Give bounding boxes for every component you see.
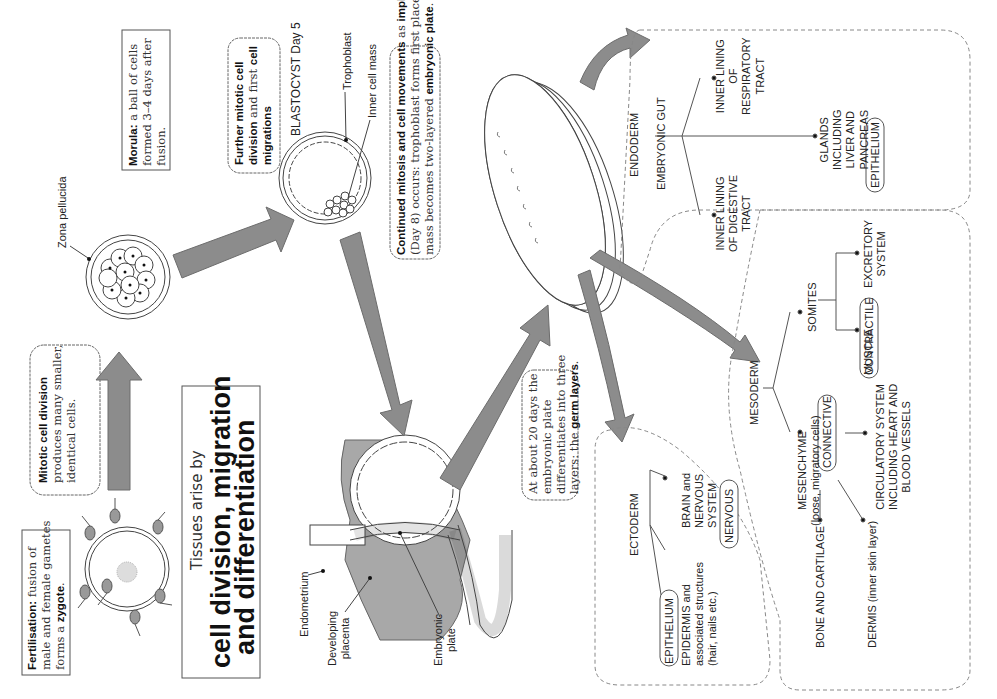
dermis-label: DERMIS (inner skin layer) xyxy=(866,521,879,648)
fertilisation-bold: Fertilisation: xyxy=(26,601,38,670)
developing-placenta-label: Developing placenta xyxy=(326,611,352,666)
mesoderm-title: MESODERM xyxy=(748,360,761,425)
blastocyst-title: BLASTOCYST Day 5 xyxy=(289,22,303,136)
nervous-pill: NERVOUS xyxy=(723,489,736,543)
implantation-text: Continued mitosis and cell movements as … xyxy=(395,0,436,255)
glands-label: GLANDS INCLUDING LIVER AND PANCREAS xyxy=(818,109,871,170)
connective-pill: CONNECTIVE xyxy=(821,396,834,468)
somites-label: SOMITES xyxy=(806,282,819,332)
mitotic-text: Mitotic cell division produces many smal… xyxy=(37,345,78,483)
endoderm-title: ENDODERM xyxy=(628,113,641,177)
circulatory-label: CIRCULATORY SYSTEM INCLUDING HEART AND B… xyxy=(874,384,914,510)
title-prefix: Tissues arise by xyxy=(188,450,206,570)
ectoderm-title: ECTODERM xyxy=(628,493,641,556)
respiratory-label: INNER LINING OF RESPIRATORY TRACT xyxy=(714,37,767,115)
mesenchyme-label: MESENCHYME (loose, migratory cells) xyxy=(796,415,822,526)
excretory-label: EXCRETORY SYSTEM xyxy=(862,220,888,288)
germ-layers-text: At about 20 days the embryonic plate dif… xyxy=(527,355,582,494)
inner-cell-mass-label: Inner cell mass xyxy=(366,44,379,118)
trophoblast-label: Trophoblast xyxy=(341,32,354,90)
morula-text: Morula: a ball of cells formed 3–4 days … xyxy=(127,38,168,166)
digestive-label: INNER LINING OF DIGESTIVE TRACT xyxy=(714,175,754,252)
zygote-illustration xyxy=(78,498,172,636)
morula-illustration xyxy=(70,235,170,319)
embryonic-plate-label: Embryonic plate xyxy=(432,614,458,666)
implantation-illustration xyxy=(308,435,512,640)
embryonic-gut-label: EMBRYONIC GUT xyxy=(655,97,668,190)
zona-pellucida-label: Zona pellucida xyxy=(56,176,69,248)
epithelium-pill-endoderm: EPITHELIUM xyxy=(869,122,882,188)
bone-cartilage-label: BONE AND CARTILAGE xyxy=(814,526,827,648)
further-text: Further mitotic cell division and first … xyxy=(233,46,274,165)
mesoderm-panel xyxy=(729,210,970,690)
epidermis-label: EPIDERMIS and associated structures (hai… xyxy=(680,562,720,666)
epithelium-pill-ectoderm: EPITHELIUM xyxy=(663,598,676,664)
endoderm-panel xyxy=(620,30,970,283)
brain-label: BRAIN and NERVOUS SYSTEM xyxy=(680,473,720,528)
germ-disc-illustration xyxy=(460,60,647,327)
endometrium-label: Endometrium xyxy=(298,572,311,637)
title-line-2: and differentiation xyxy=(230,420,261,656)
fertilisation-text: Fertilisation: fusion of male and female… xyxy=(26,521,67,670)
contractile-pill: CONTRACTILE xyxy=(863,297,876,375)
